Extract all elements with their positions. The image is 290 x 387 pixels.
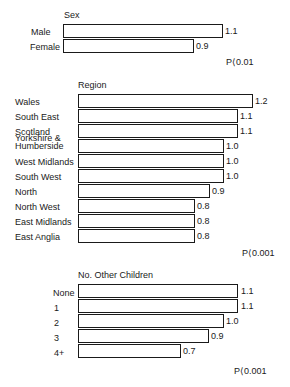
bar-value: 1.1 [225,26,238,36]
bar-label: East Midlands [15,217,72,227]
bar-row-male: Male 1.1 [0,24,290,39]
bar-value: 0.9 [196,41,209,51]
bar-row-yorkshire-humberside: Yorkshire & Humberside 1.0 [0,139,290,154]
bar-row-4plus: 4+ 0.7 [0,344,290,359]
bar [78,169,224,183]
bar-label: South West [15,172,61,182]
bar-row-south-east: South East 1.1 [0,109,290,124]
bar-label: West Midlands [15,157,74,167]
bar [78,154,224,168]
bar [78,229,195,243]
bar-value: 0.9 [211,331,224,341]
bar [78,329,209,343]
bar [78,199,195,213]
bar-value: 0.8 [197,216,210,226]
bar-row-south-west: South West 1.0 [0,169,290,184]
bar-value: 1.1 [241,286,254,296]
bar [78,109,238,123]
bar-label: North West [15,202,60,212]
bar-label-line2: Humberside [15,141,64,151]
bar-value: 1.0 [226,171,239,181]
bar [78,184,210,198]
bar-row-wales: Wales 1.2 [0,94,290,109]
bar-row-none: None 1.1 [0,284,290,299]
bar-label: East Anglia [15,232,60,242]
bar [78,284,238,298]
bar-row-2: 2 1.0 [0,314,290,329]
bar-row-north: North 0.9 [0,184,290,199]
bar-value: 0.9 [212,186,225,196]
p-value-annotation: P⟨0.01 [226,57,254,67]
children-panel-title: No. Other Children [78,270,153,280]
bar [78,214,195,228]
bar-label: 2 [54,318,59,328]
bar-value: 0.7 [183,346,196,356]
bar-value: 1.2 [255,96,268,106]
bar-value: 1.1 [241,301,254,311]
bar-label: North [15,187,37,197]
bar-value: 0.8 [197,201,210,211]
bar-label: Male [31,27,51,37]
bar-label: 1 [54,303,59,313]
bar-value: 1.0 [226,141,239,151]
bar-value: 1.0 [226,316,239,326]
bar [78,299,238,313]
bar-row-east-anglia: East Anglia 0.8 [0,229,290,244]
bar [78,314,224,328]
p-value-annotation: P⟨0.001 [242,248,275,258]
bar-label: South East [15,112,59,122]
bar-row-west-midlands: West Midlands 1.0 [0,154,290,169]
bar [78,344,181,358]
bar-label: Wales [15,97,40,107]
bar-label: 4+ [54,348,64,358]
p-value-annotation: P⟨0.001 [234,366,267,376]
bar [63,39,194,53]
bar [78,94,253,108]
region-panel-title: Region [78,80,107,90]
bar [78,124,238,138]
bar-label: 3 [54,333,59,343]
bar-value: 1.1 [240,126,253,136]
bar [63,24,223,38]
bar-row-1: 1 1.1 [0,299,290,314]
bar-value: 1.0 [226,156,239,166]
bar-label: Female [30,42,60,52]
bar-row-east-midlands: East Midlands 0.8 [0,214,290,229]
bar-label: None [53,288,75,298]
bar [78,139,224,153]
bar-row-3: 3 0.9 [0,329,290,344]
bar-value: 1.1 [240,111,253,121]
bar-label: Yorkshire & Humberside [15,134,64,150]
bar-row-female: Female 0.9 [0,39,290,54]
sex-panel-title: Sex [64,10,80,20]
bar-value: 0.8 [197,231,210,241]
bar-row-north-west: North West 0.8 [0,199,290,214]
